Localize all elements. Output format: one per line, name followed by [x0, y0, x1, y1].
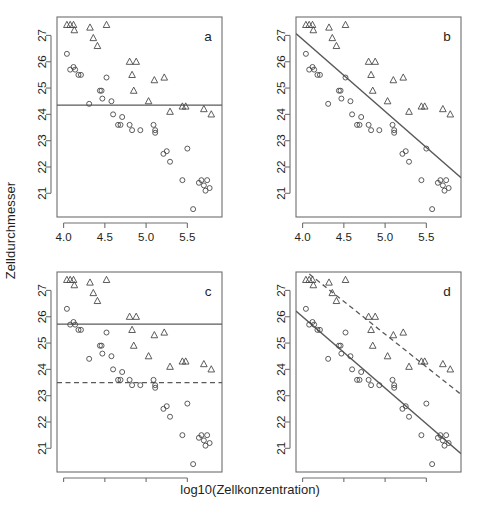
- triangle-marker: [384, 98, 391, 104]
- panel-d: 4.04.55.05.521222324252627d: [275, 263, 461, 482]
- circle-marker: [366, 377, 371, 382]
- triangle-marker: [406, 108, 413, 114]
- triangle-marker: [130, 342, 137, 348]
- triangle-marker: [369, 87, 376, 93]
- circle-marker: [127, 122, 132, 127]
- circle-marker: [111, 112, 116, 117]
- x-tick-label: 5.5: [418, 231, 434, 243]
- circle-marker: [185, 146, 190, 151]
- triangle-marker: [103, 21, 110, 27]
- triangle-marker: [400, 329, 407, 335]
- circle-marker: [151, 377, 156, 382]
- circle-marker: [191, 462, 196, 467]
- triangle-marker: [130, 87, 137, 93]
- y-tick-label: 26: [275, 310, 287, 323]
- triangle-marker: [440, 361, 447, 367]
- fitted-line-triangle-regression: [296, 263, 461, 394]
- triangle-marker: [333, 42, 340, 48]
- circle-marker: [350, 367, 355, 372]
- circle-marker: [168, 159, 173, 164]
- circle-marker: [191, 207, 196, 212]
- triangle-marker: [447, 111, 454, 117]
- series-triangles: [64, 21, 215, 117]
- y-tick-label: 25: [275, 337, 287, 350]
- triangle-marker: [326, 279, 333, 285]
- triangle-marker: [151, 332, 158, 338]
- plot-frame: [57, 272, 222, 472]
- circle-marker: [164, 149, 169, 154]
- y-axis: 21222324252627: [275, 29, 290, 200]
- circle-marker: [168, 414, 173, 419]
- y-tick-label: 23: [275, 389, 287, 402]
- circle-marker: [407, 414, 412, 419]
- triangle-marker: [208, 111, 215, 117]
- circle-marker: [130, 383, 135, 388]
- data-points: [303, 276, 454, 466]
- circle-marker: [205, 433, 210, 438]
- panel-a: 4.04.55.05.521222324252627a: [36, 17, 222, 243]
- triangle-marker: [94, 42, 101, 48]
- circle-marker: [161, 151, 166, 156]
- triangle-marker: [90, 34, 97, 40]
- triangle-marker: [126, 58, 133, 64]
- circle-marker: [127, 377, 132, 382]
- panel-label-c: c: [205, 284, 212, 299]
- panel-b: 4.04.55.05.521222324252627b: [275, 17, 461, 243]
- circle-marker: [400, 406, 405, 411]
- series-triangles: [303, 21, 454, 117]
- x-axis: 4.04.55.05.5: [295, 223, 435, 243]
- y-tick-label: 24: [275, 362, 287, 375]
- circle-marker: [120, 115, 125, 120]
- circle-marker: [109, 354, 114, 359]
- fitted-lines: [296, 34, 461, 178]
- y-tick-label: 21: [36, 187, 48, 200]
- triangle-marker: [129, 71, 136, 77]
- circle-marker: [419, 433, 424, 438]
- triangle-marker: [103, 276, 110, 282]
- circle-marker: [201, 438, 206, 443]
- circle-marker: [326, 356, 331, 361]
- circle-marker: [104, 330, 109, 335]
- circle-marker: [207, 186, 212, 191]
- y-tick-label: 24: [275, 107, 287, 120]
- circle-marker: [400, 151, 405, 156]
- triangle-marker: [326, 24, 333, 30]
- circle-marker: [446, 186, 451, 191]
- y-tick-label: 25: [275, 82, 287, 95]
- triangle-marker: [342, 21, 349, 27]
- circle-marker: [369, 128, 374, 133]
- panel-label-a: a: [204, 29, 212, 44]
- series-triangles: [303, 276, 454, 372]
- triangle-marker: [94, 297, 101, 303]
- circle-marker: [111, 367, 116, 372]
- triangle-marker: [372, 313, 379, 319]
- triangle-marker: [372, 58, 379, 64]
- y-tick-label: 27: [275, 29, 287, 42]
- x-tick-label: 4.5: [97, 231, 113, 243]
- y-tick-label: 25: [36, 337, 48, 350]
- plot-frame: [57, 17, 222, 217]
- plot-frame: [296, 272, 461, 472]
- y-tick-label: 22: [275, 416, 287, 429]
- triangle-marker: [400, 74, 407, 80]
- y-tick-label: 27: [275, 284, 287, 297]
- circle-marker: [407, 159, 412, 164]
- circle-marker: [100, 351, 105, 356]
- circle-marker: [366, 122, 371, 127]
- triangle-marker: [384, 353, 391, 359]
- fitted-lines: [296, 263, 461, 453]
- triangle-marker: [342, 276, 349, 282]
- circle-marker: [339, 351, 344, 356]
- triangle-marker: [390, 332, 397, 338]
- data-points: [64, 276, 215, 466]
- triangle-marker: [145, 98, 152, 104]
- triangle-marker: [333, 297, 340, 303]
- triangle-marker: [167, 363, 174, 369]
- circle-marker: [444, 178, 449, 183]
- circle-marker: [109, 99, 114, 104]
- circle-marker: [87, 356, 92, 361]
- triangle-marker: [161, 329, 168, 335]
- circle-marker: [424, 401, 429, 406]
- circle-marker: [339, 96, 344, 101]
- triangle-marker: [87, 24, 94, 30]
